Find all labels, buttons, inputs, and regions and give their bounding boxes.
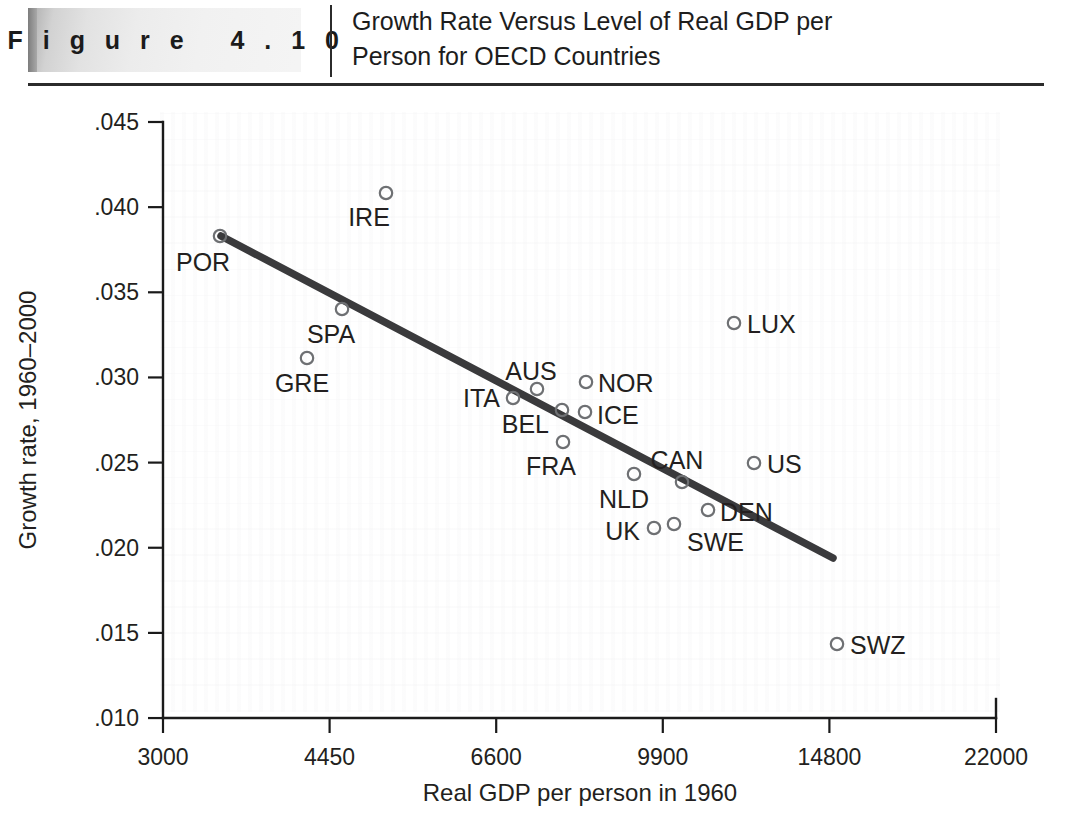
data-point-marker xyxy=(628,468,640,480)
data-point-marker xyxy=(336,303,348,315)
figure-number-label: F i g u r e 4 . 1 0 xyxy=(0,26,345,55)
figure-title: Growth Rate Versus Level of Real GDP per… xyxy=(352,4,1012,74)
data-point: US xyxy=(748,450,802,478)
x-tick-label: 4450 xyxy=(304,744,355,770)
data-point-marker xyxy=(748,457,760,469)
figure-title-line-2: Person for OECD Countries xyxy=(352,39,1012,74)
data-point: SPA xyxy=(307,303,355,348)
data-point-label: AUS xyxy=(505,357,556,385)
data-point: IRE xyxy=(348,187,392,231)
data-point: SWZ xyxy=(831,631,906,659)
x-tick-label: 9900 xyxy=(637,744,688,770)
data-point-label: IRE xyxy=(348,203,390,231)
figure-number-badge: F i g u r e 4 . 1 0 xyxy=(28,8,301,72)
y-tick-label: .025 xyxy=(94,450,139,476)
data-point: NOR xyxy=(580,369,654,397)
data-point: GRE xyxy=(275,352,329,397)
data-point-label: DEN xyxy=(720,498,773,526)
data-point-marker xyxy=(831,638,843,650)
header-vertical-divider xyxy=(330,5,332,77)
data-point: BEL xyxy=(502,404,568,438)
data-point-marker xyxy=(557,436,569,448)
x-axis-ticks: 30004450660099001480022000 xyxy=(137,718,1028,770)
data-point-label: FRA xyxy=(526,452,576,480)
header-horizontal-rule xyxy=(28,83,1044,86)
data-point-label: GRE xyxy=(275,369,329,397)
x-axis-title: Real GDP per person in 1960 xyxy=(423,779,737,806)
figure-badge-edge-shadow xyxy=(28,8,37,72)
x-tick-label: 22000 xyxy=(964,744,1028,770)
data-point: DEN xyxy=(702,498,773,526)
data-points-layer: PORIRESPAGREITAAUSBELICENORFRANLDCANUKSW… xyxy=(176,187,906,659)
data-point-label: UK xyxy=(605,517,640,545)
y-tick-label: .040 xyxy=(94,194,139,220)
data-point-label: BEL xyxy=(502,410,549,438)
data-point-marker xyxy=(380,187,392,199)
data-point-label: ICE xyxy=(597,401,639,429)
y-axis-title: Growth rate, 1960–2000 xyxy=(14,291,41,550)
y-tick-label: .020 xyxy=(94,535,139,561)
x-tick-label: 6600 xyxy=(471,744,522,770)
data-point-marker xyxy=(579,406,591,418)
x-tick-label: 14800 xyxy=(797,744,861,770)
data-point-marker xyxy=(301,352,313,364)
figure-header: F i g u r e 4 . 1 0 Growth Rate Versus L… xyxy=(0,0,1073,92)
y-tick-label: .010 xyxy=(94,705,139,731)
data-point-marker xyxy=(580,376,592,388)
data-point: NLD xyxy=(599,468,649,513)
data-point-label: CAN xyxy=(651,446,704,474)
x-tick-label: 3000 xyxy=(137,744,188,770)
y-axis-ticks: .045.040.035.030.025.020.015.010 xyxy=(94,109,163,731)
data-point-label: SPA xyxy=(307,320,355,348)
chart-canvas: .045.040.035.030.025.020.015.010 3000445… xyxy=(0,92,1073,815)
data-point-label: POR xyxy=(176,248,230,276)
scatter-chart: .045.040.035.030.025.020.015.010 3000445… xyxy=(0,92,1073,815)
data-point-label: NOR xyxy=(598,369,654,397)
data-point-label: NLD xyxy=(599,485,649,513)
data-point-marker xyxy=(728,317,740,329)
y-tick-label: .015 xyxy=(94,620,139,646)
figure-title-line-1: Growth Rate Versus Level of Real GDP per xyxy=(352,4,1012,39)
data-point: LUX xyxy=(728,310,796,338)
data-point-marker xyxy=(702,504,714,516)
y-tick-label: .045 xyxy=(94,109,139,135)
data-point-label: US xyxy=(767,450,802,478)
data-point-marker xyxy=(648,522,660,534)
data-point-label: SWE xyxy=(687,528,744,556)
data-point-label: SWZ xyxy=(850,631,906,659)
data-point-marker xyxy=(668,518,680,530)
data-point-label: LUX xyxy=(747,310,796,338)
data-point: UK xyxy=(605,517,660,545)
data-point-label: ITA xyxy=(463,384,500,412)
y-tick-label: .035 xyxy=(94,279,139,305)
data-point: FRA xyxy=(526,436,576,480)
y-tick-label: .030 xyxy=(94,364,139,390)
